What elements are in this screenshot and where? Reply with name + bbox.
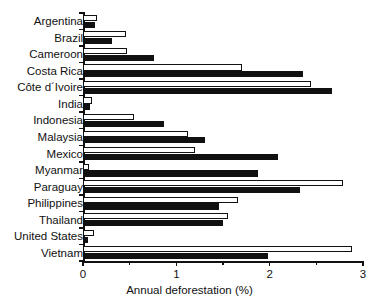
- category-label: Paraguay: [34, 181, 83, 193]
- y-tick: [79, 260, 84, 262]
- bar-filled: [83, 88, 332, 94]
- y-tick: [79, 62, 84, 64]
- bar-filled: [83, 121, 164, 127]
- bar-open: [83, 213, 228, 219]
- category-label: Argentina: [34, 15, 83, 27]
- x-tick-minor: [129, 261, 131, 265]
- y-tick: [79, 78, 84, 80]
- x-tick-label: 3: [348, 268, 378, 280]
- category-label: Myanmar: [35, 164, 83, 176]
- bar-filled: [83, 187, 300, 193]
- bar-open: [83, 15, 97, 21]
- y-tick: [79, 45, 84, 47]
- x-tick-major: [176, 261, 178, 266]
- bar-open: [83, 114, 134, 120]
- bar-open: [83, 147, 195, 153]
- bar-filled: [83, 154, 278, 160]
- bar-open: [83, 31, 126, 37]
- bar-open: [83, 131, 188, 137]
- x-tick-major: [82, 261, 84, 266]
- bar-filled: [83, 55, 154, 61]
- bar-filled: [83, 71, 303, 77]
- y-tick: [79, 145, 84, 147]
- x-tick-major: [269, 261, 271, 266]
- category-label: Côte d´Ivoire: [17, 81, 83, 93]
- x-axis-title: Annual deforestation (%): [0, 284, 379, 296]
- x-tick-label: 0: [68, 268, 98, 280]
- x-tick-minor: [222, 261, 224, 265]
- bar-open: [83, 48, 127, 54]
- category-label: Thailand: [39, 214, 83, 226]
- category-label: Vietnam: [41, 247, 83, 259]
- bar-open: [83, 180, 343, 186]
- category-label: Brazil: [54, 32, 83, 44]
- bar-filled: [83, 22, 95, 28]
- x-tick-minor: [316, 261, 318, 265]
- category-label: Mexico: [47, 148, 83, 160]
- bar-filled: [83, 237, 88, 243]
- y-tick: [79, 178, 84, 180]
- category-label: India: [58, 98, 83, 110]
- category-label: Philippines: [27, 197, 83, 209]
- deforestation-bar-chart: 0123 ArgentinaBrazilCameroonCosta RicaCô…: [0, 0, 379, 308]
- bar-open: [83, 230, 94, 236]
- bar-filled: [83, 203, 219, 209]
- bar-open: [83, 246, 352, 252]
- x-tick-major: [362, 261, 364, 266]
- bar-open: [83, 97, 92, 103]
- y-tick: [79, 95, 84, 97]
- y-tick: [79, 227, 84, 229]
- bar-open: [83, 81, 311, 87]
- category-label: Costa Rica: [27, 65, 83, 77]
- y-tick: [79, 111, 84, 113]
- bar-filled: [83, 104, 90, 110]
- y-tick: [79, 194, 84, 196]
- x-tick-label: 2: [255, 268, 285, 280]
- bar-filled: [83, 38, 112, 44]
- category-label: Indonesia: [33, 114, 83, 126]
- bar-filled: [83, 220, 223, 226]
- bar-filled: [83, 170, 258, 176]
- bar-filled: [83, 137, 205, 143]
- y-tick: [79, 211, 84, 213]
- y-tick: [79, 244, 84, 246]
- category-label: United States: [14, 230, 83, 242]
- bar-open: [83, 164, 89, 170]
- bar-open: [83, 64, 242, 70]
- x-tick-label: 1: [161, 268, 191, 280]
- y-tick: [79, 161, 84, 163]
- y-tick: [79, 29, 84, 31]
- bar-open: [83, 197, 238, 203]
- y-tick: [79, 12, 84, 14]
- category-label: Malaysia: [38, 131, 83, 143]
- bar-filled: [83, 253, 268, 259]
- category-label: Cameroon: [29, 48, 83, 60]
- y-tick: [79, 128, 84, 130]
